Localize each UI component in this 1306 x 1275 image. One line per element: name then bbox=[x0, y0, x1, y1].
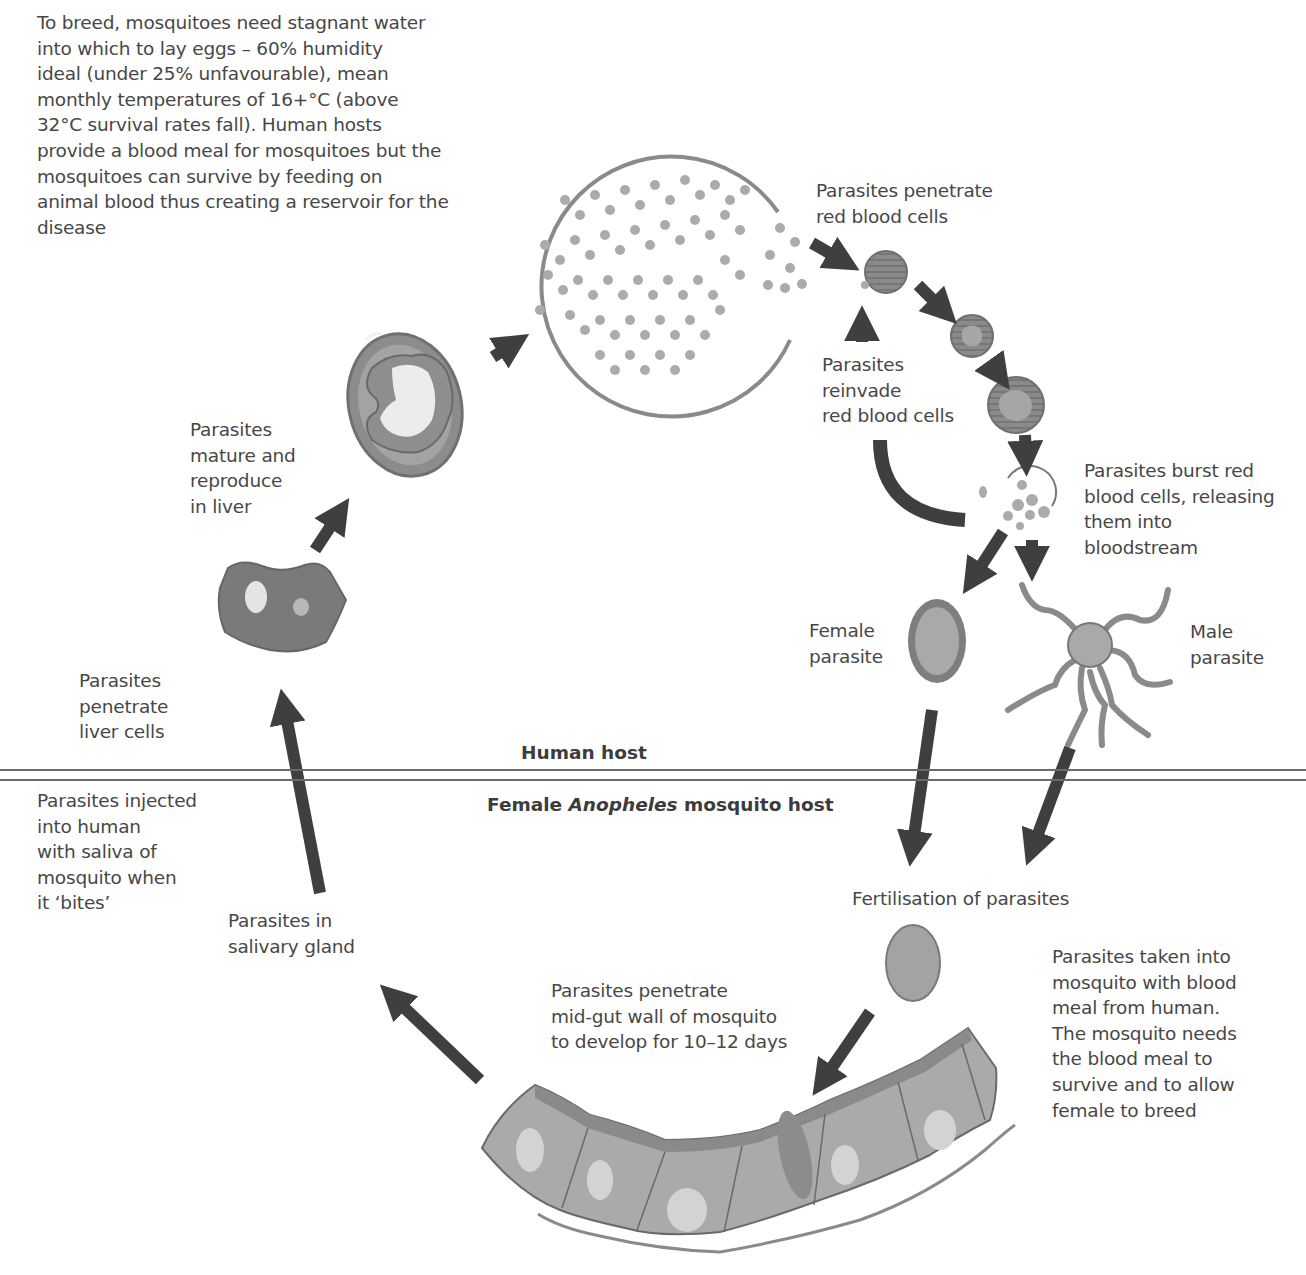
trophozoite-cell-icon bbox=[951, 315, 993, 357]
label-burst-red-blood-cells: Parasites burst red blood cells, releasi… bbox=[1084, 458, 1275, 560]
infected-red-blood-cell-icon bbox=[861, 251, 907, 293]
label-blood-meal: Parasites taken into mosquito with blood… bbox=[1052, 944, 1237, 1123]
label-mature-in-liver: Parasites mature and reproduce in liver bbox=[190, 417, 296, 519]
arrow-to-red-cell-2 bbox=[918, 285, 945, 312]
arrow-to-burst-cell bbox=[1025, 435, 1026, 460]
label-penetrate-red-blood-cells: Parasites penetrate red blood cells bbox=[816, 178, 993, 229]
merozoites-cluster bbox=[535, 175, 807, 375]
section-mosquito-host: Female Anopheles mosquito host bbox=[487, 794, 834, 815]
label-fertilisation: Fertilisation of parasites bbox=[852, 886, 1069, 912]
schizont-cell-icon bbox=[988, 377, 1044, 433]
male-parasite-icon bbox=[1008, 585, 1170, 745]
mosquito-host-prefix: Female bbox=[487, 794, 569, 815]
label-male-parasite: Male parasite bbox=[1190, 619, 1264, 670]
arrow-to-salivary bbox=[392, 996, 480, 1080]
arrow-to-red-cell-3 bbox=[990, 362, 1000, 376]
arrow-to-liver-cells bbox=[284, 705, 320, 893]
arrow-to-red-cell-1 bbox=[812, 243, 845, 262]
arrow-to-midgut bbox=[822, 1012, 870, 1082]
ruptured-liver-cell-icon bbox=[535, 157, 807, 417]
reinvade-curve-arrow bbox=[880, 440, 965, 520]
burst-red-blood-cell-icon bbox=[979, 466, 1056, 530]
label-reinvade-red-blood-cells: Parasites reinvade red blood cells bbox=[822, 352, 954, 429]
infected-liver-cell-icon bbox=[219, 562, 346, 651]
mosquito-midgut-wall-icon bbox=[482, 1028, 1015, 1252]
arrow-to-female-parasite bbox=[972, 532, 1003, 580]
divider-top bbox=[0, 769, 1306, 771]
section-human-host: Human host bbox=[521, 742, 647, 763]
zygote-icon bbox=[886, 925, 940, 1001]
mosquito-genus: Anopheles bbox=[569, 794, 678, 815]
mosquito-host-suffix: mosquito host bbox=[678, 794, 834, 815]
label-injected-into-human: Parasites injected into human with saliv… bbox=[37, 788, 197, 916]
liver-schizont-icon bbox=[333, 322, 477, 489]
female-parasite-icon bbox=[908, 599, 966, 683]
label-salivary-gland: Parasites in salivary gland bbox=[228, 908, 355, 959]
label-penetrate-liver-cells: Parasites penetrate liver cells bbox=[79, 668, 168, 745]
arrow-male-to-fertilisation bbox=[1032, 748, 1070, 850]
arrow-to-liver-schizont bbox=[315, 512, 340, 550]
divider-bottom bbox=[0, 779, 1306, 781]
breeding-conditions-note: To breed, mosquitoes need stagnant water… bbox=[37, 10, 449, 240]
label-female-parasite: Female parasite bbox=[809, 618, 883, 669]
arrow-to-ruptured-cell bbox=[493, 343, 515, 357]
label-midgut-wall: Parasites penetrate mid-gut wall of mosq… bbox=[551, 978, 787, 1055]
